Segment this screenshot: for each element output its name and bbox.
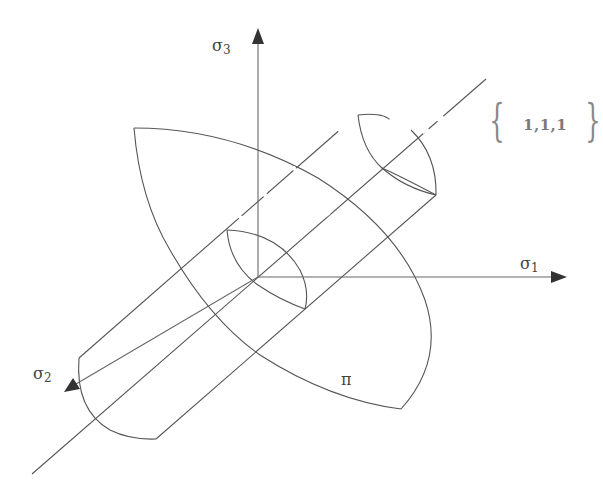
sigma3-axis: [252, 28, 264, 277]
right-brace-icon: }: [586, 99, 601, 143]
sigma2-subscript: 2: [44, 371, 52, 385]
sigma2-label: σ2: [33, 366, 52, 384]
sigma2-symbol: σ: [33, 364, 44, 383]
hydrostatic-axis-label: { 1,1,1 }: [483, 95, 603, 147]
pi-plane-label: π: [341, 372, 352, 388]
sigma3-subscript: 3: [223, 43, 231, 57]
sigma1-subscript: 1: [531, 261, 539, 275]
left-brace-icon: {: [489, 99, 504, 143]
sigma3-label: σ3: [212, 38, 231, 56]
sigma3-symbol: σ: [212, 36, 223, 55]
sigma2-arrowhead: [64, 378, 80, 392]
sigma3-arrowhead: [252, 28, 264, 44]
sigma1-symbol: σ: [520, 254, 531, 273]
hydrostatic-axis-text: 1,1,1: [523, 116, 567, 134]
sigma1-arrowhead: [551, 271, 567, 283]
sigma1-label: σ1: [520, 256, 539, 274]
